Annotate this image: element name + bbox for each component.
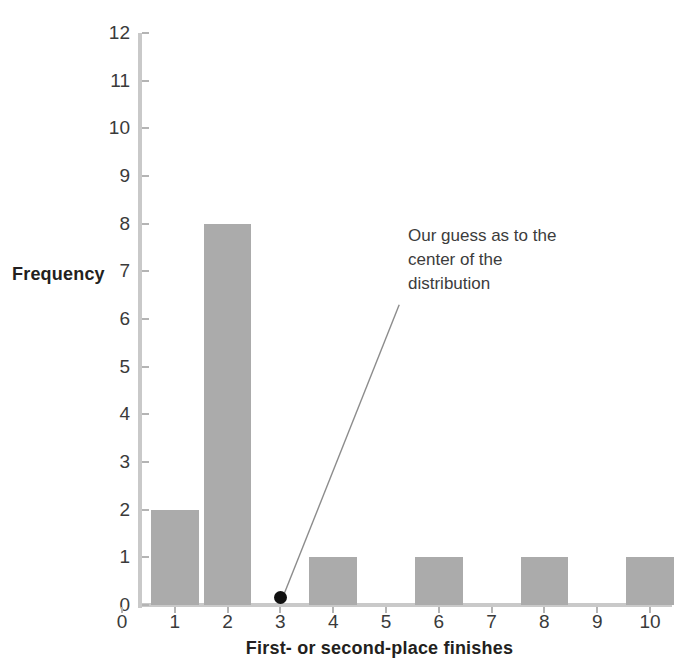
y-axis-title: Frequency xyxy=(12,264,105,285)
bar-2 xyxy=(204,224,252,605)
annotation-line-3: distribution xyxy=(408,272,638,296)
y-tick-label-2: 2 xyxy=(96,500,130,519)
y-tick-label-wrap-9: 9 xyxy=(96,166,130,185)
x-tick-label-6: 6 xyxy=(419,612,459,631)
y-tick-label-wrap-11: 11 xyxy=(96,71,130,90)
center-guess-annotation: Our guess as to the center of the distri… xyxy=(408,224,638,296)
annotation-line-1: Our guess as to the xyxy=(408,224,638,248)
x-tick-label-9: 9 xyxy=(577,612,617,631)
y-tick-label-wrap-1: 1 xyxy=(96,547,130,566)
x-tick-label-1: 1 xyxy=(155,612,195,631)
histogram-figure: Frequency 0123456789101112 012345678910 … xyxy=(0,0,687,669)
annotation-line-2: center of the xyxy=(408,248,638,272)
x-tick-label-7: 7 xyxy=(472,612,512,631)
plot-area xyxy=(140,33,668,605)
bar-8 xyxy=(521,557,569,605)
y-tick-label-wrap-3: 3 xyxy=(96,452,130,471)
x-tick-label-2: 2 xyxy=(208,612,248,631)
x-tick-label-8: 8 xyxy=(524,612,564,631)
x-tick-label-0: 0 xyxy=(102,612,142,631)
y-tick-label-11: 11 xyxy=(96,71,130,90)
y-tick-label-wrap-5: 5 xyxy=(96,357,130,376)
y-tick-label-wrap-12: 12 xyxy=(96,23,130,42)
x-axis-title: First- or second-place finishes xyxy=(0,638,687,659)
y-tick-label-8: 8 xyxy=(96,214,130,233)
x-tick-label-3: 3 xyxy=(260,612,300,631)
y-tick-label-4: 4 xyxy=(96,404,130,423)
y-tick-label-5: 5 xyxy=(96,357,130,376)
bar-4 xyxy=(309,557,357,605)
y-tick-label-wrap-8: 8 xyxy=(96,214,130,233)
y-tick-label-9: 9 xyxy=(96,166,130,185)
y-tick-label-wrap-6: 6 xyxy=(96,309,130,328)
y-tick-label-10: 10 xyxy=(96,118,130,137)
y-tick-label-12: 12 xyxy=(96,23,130,42)
y-tick-label-wrap-4: 4 xyxy=(96,404,130,423)
x-tick-label-10: 10 xyxy=(630,612,670,631)
bar-6 xyxy=(415,557,463,605)
x-tick-label-5: 5 xyxy=(366,612,406,631)
bar-1 xyxy=(151,510,199,605)
y-tick-label-1: 1 xyxy=(96,547,130,566)
y-tick-label-wrap-10: 10 xyxy=(96,118,130,137)
bar-10 xyxy=(626,557,674,605)
y-tick-label-3: 3 xyxy=(96,452,130,471)
x-tick-label-4: 4 xyxy=(313,612,353,631)
y-tick-label-wrap-7: 7 xyxy=(96,261,130,280)
y-tick-label-6: 6 xyxy=(96,309,130,328)
y-tick-label-wrap-2: 2 xyxy=(96,500,130,519)
y-tick-label-7: 7 xyxy=(96,261,130,280)
